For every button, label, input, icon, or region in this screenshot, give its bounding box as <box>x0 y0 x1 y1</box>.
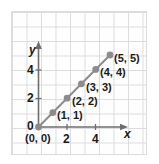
point-label-1-1: (1, 1) <box>57 110 83 121</box>
x-tick-label-4: 4 <box>92 133 99 145</box>
data-point-3-3 <box>78 80 85 87</box>
point-label-5-5: (5, 5) <box>114 53 140 64</box>
point-label-4-4: (4, 4) <box>100 67 126 78</box>
data-point-2-2 <box>64 95 71 102</box>
point-label-2-2: (2, 2) <box>72 96 98 107</box>
plot-canvas <box>0 0 159 164</box>
data-point-4-4 <box>92 66 99 73</box>
data-point-5-5 <box>107 52 114 59</box>
y-axis-label: y <box>29 44 36 56</box>
coordinate-graph-figure: y x 0 2 4 2 4 (0, 0) (1, 1) (2, 2) (3, 3… <box>0 0 159 164</box>
x-axis-label: x <box>124 128 131 140</box>
data-point-1-1 <box>49 109 56 116</box>
y-tick-label-0: 0 <box>27 120 34 132</box>
y-tick-label-4: 4 <box>27 64 34 76</box>
data-point-0-0 <box>35 124 42 131</box>
y-axis-arrow-icon <box>35 41 42 49</box>
x-tick-label-2: 2 <box>63 133 70 145</box>
point-label-3-3: (3, 3) <box>86 82 112 93</box>
y-tick-label-2: 2 <box>27 92 34 104</box>
point-label-0-0: (0, 0) <box>25 133 51 144</box>
